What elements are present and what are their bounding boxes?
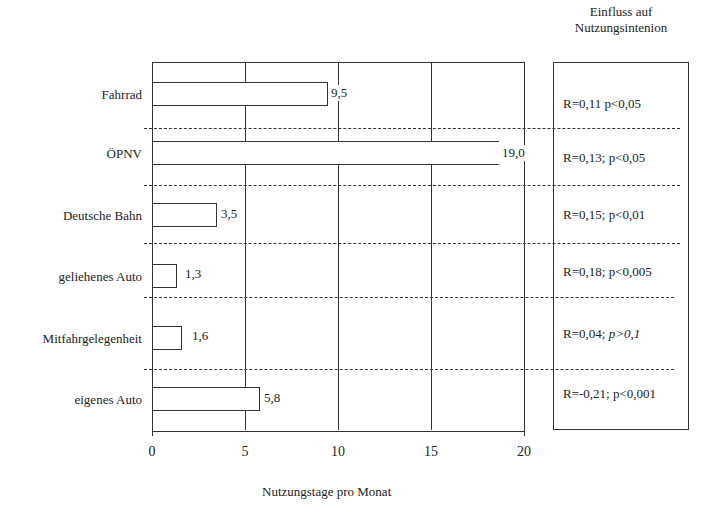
stat-p: p<0,05 (609, 150, 646, 165)
bar-oepnv (152, 141, 499, 165)
stat-fahrrad: R=0,11 p<0,05 (563, 96, 641, 112)
value-label: 9,5 (329, 85, 349, 101)
value-label: 1,6 (190, 328, 210, 344)
value-label: 5,8 (262, 390, 282, 406)
category-label: Deutsche Bahn (63, 208, 142, 224)
category-label: Mitfahrgelegenheit (43, 331, 142, 347)
x-tick-label: 20 (517, 444, 531, 460)
gridline-x-20 (524, 62, 525, 430)
category-label: eigenes Auto (74, 392, 142, 408)
gridline-x-10 (338, 62, 339, 430)
tick-mark-0 (152, 430, 153, 436)
stat-p: p<0,05 (605, 96, 642, 111)
side-table-header-line: Nutzungsintenion (553, 20, 689, 36)
stat-p: p>0,1 (609, 326, 641, 341)
stat-mitfahrgelegenheit: R=0,04; p>0,1 (563, 326, 640, 342)
bar-deutsche-bahn (152, 203, 217, 227)
bar-geliehenes-auto (152, 264, 177, 288)
side-table-box (553, 62, 689, 430)
stat-oepnv: R=0,13; p<0,05 (563, 150, 645, 166)
stat-r: R=0,18; (563, 264, 609, 279)
x-tick-label: 5 (242, 444, 249, 460)
gridline-x-15 (431, 62, 432, 430)
stat-r: R=-0,21; (563, 386, 613, 401)
stat-p: p<0,001 (613, 386, 656, 401)
stat-r: R=0,11 (563, 96, 605, 111)
category-label: geliehenes Auto (59, 269, 142, 285)
x-tick-label: 0 (149, 444, 156, 460)
category-label: Fahrrad (102, 87, 142, 103)
side-table-header: Einfluss auf Nutzungsintenion (553, 4, 689, 36)
side-table-header-line: Einfluss auf (553, 4, 689, 20)
bar-eigenes-auto (152, 387, 260, 411)
gridline-x-5 (245, 62, 246, 430)
stat-p: p<0,005 (609, 264, 652, 279)
value-label: 3,5 (219, 206, 239, 222)
tick-mark-20 (524, 430, 525, 436)
stat-eigenes-auto: R=-0,21; p<0,001 (563, 386, 656, 402)
value-label: 1,3 (183, 266, 203, 282)
stat-p: p<0,01 (609, 207, 646, 222)
stat-r: R=0,04; (563, 326, 609, 341)
value-label: 19,0 (500, 145, 527, 161)
x-tick-label: 15 (424, 444, 438, 460)
bar-mitfahrgelegenheit (152, 326, 182, 350)
x-axis-title: Nutzungstage pro Monat (262, 484, 391, 500)
bar-fahrrad (152, 82, 328, 106)
stat-deutsche-bahn: R=0,15; p<0,01 (563, 207, 645, 223)
stat-r: R=0,15; (563, 207, 609, 222)
stat-r: R=0,13; (563, 150, 609, 165)
category-label: ÖPNV (107, 146, 142, 162)
x-tick-label: 10 (331, 444, 345, 460)
gridline-x-0 (152, 62, 153, 430)
stat-geliehenes-auto: R=0,18; p<0,005 (563, 264, 652, 280)
